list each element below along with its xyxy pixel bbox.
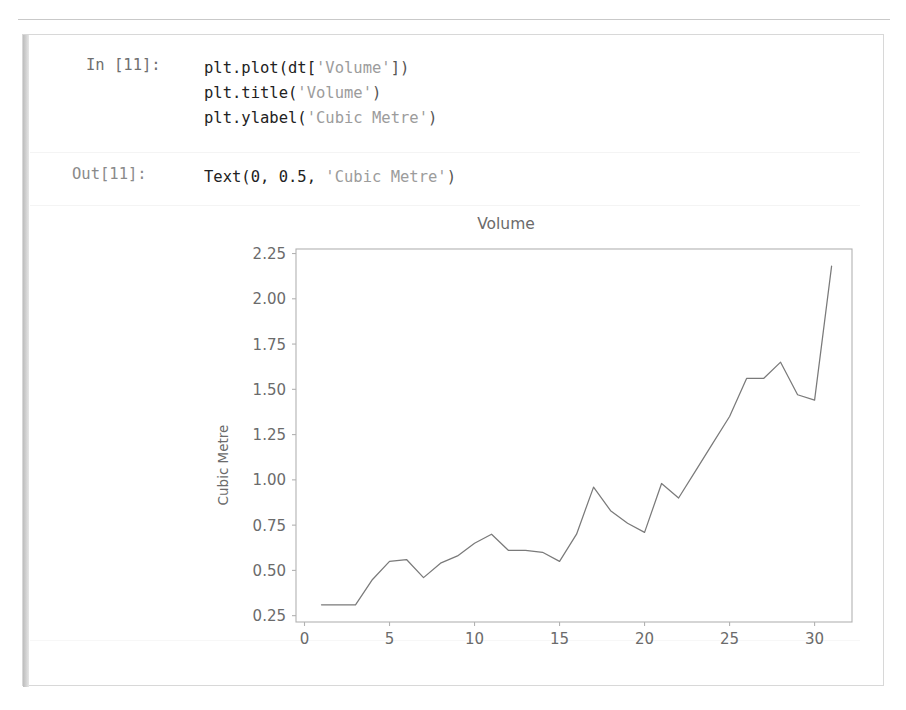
code-line-2-call: plt.title( [204,84,297,102]
x-tick-label: 25 [720,630,739,648]
code-editor-area[interactable]: plt.plot(dt['Volume']) plt.title('Volume… [204,56,437,131]
code-line-1: plt.plot(dt['Volume']) [204,59,409,77]
output-text-tail: ) [447,168,456,186]
cell-selection-gutter [23,35,29,687]
page-top-divider [18,19,890,20]
chart-title: Volume [477,215,535,233]
code-line-1-tail: ]) [391,59,410,77]
code-line-2-string: 'Volume' [297,84,372,102]
y-tick-label: 1.75 [253,336,286,354]
y-tick-label: 1.25 [253,426,286,444]
x-tick-label: 15 [550,630,569,648]
output-prompt-label: Out[11]: [72,165,147,183]
x-tick-label: 0 [300,630,310,648]
y-tick-label: 0.75 [253,517,286,535]
code-line-2: plt.title('Volume') [204,84,381,102]
x-tick-label: 5 [385,630,395,648]
code-line-2-tail: ) [372,84,381,102]
scan-artifact-band [30,640,860,641]
x-tick-label: 30 [805,630,824,648]
matplotlib-figure-output: Volume Cubic Metre 0.250.500.751.001.251… [206,200,866,652]
y-tick-label: 0.50 [253,562,286,580]
y-tick-label: 0.25 [253,607,286,625]
code-line-3-string: 'Cubic Metre' [307,109,428,127]
cell-output-text: Text(0, 0.5, 'Cubic Metre') [204,165,456,190]
scan-artifact-band [30,152,860,153]
y-tick-label: 1.50 [253,381,286,399]
output-text-head: Text(0, 0.5, [204,168,325,186]
scan-artifact-band [30,205,860,206]
figure-background [206,200,866,652]
y-axis-label: Cubic Metre [215,425,231,506]
output-text-string: 'Cubic Metre' [325,168,446,186]
code-line-3-call: plt.ylabel( [204,109,307,127]
code-line-3: plt.ylabel('Cubic Metre') [204,109,437,127]
code-line-3-tail: ) [428,109,437,127]
line-chart: Volume Cubic Metre 0.250.500.751.001.251… [206,200,866,652]
x-tick-label: 20 [635,630,654,648]
input-prompt-label: In [11]: [86,56,161,74]
y-tick-label: 1.00 [253,471,286,489]
code-line-1-call: plt.plot(dt[ [204,59,316,77]
x-tick-label: 10 [465,630,484,648]
y-tick-label: 2.00 [253,290,286,308]
y-tick-label: 2.25 [253,245,286,263]
code-line-1-string: 'Volume' [316,59,391,77]
